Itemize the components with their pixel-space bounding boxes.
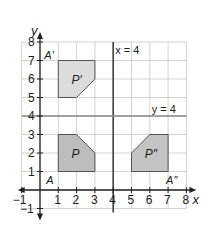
x-tick-label: 8 (182, 193, 189, 207)
y-tick-label: −1 (20, 202, 34, 216)
x-tick-label: 7 (164, 193, 171, 207)
x-axis-label: x (191, 192, 199, 207)
shape-label-P-double-prime: P″ (145, 147, 158, 161)
label-x-equals-4: x = 4 (115, 44, 139, 56)
x-tick-label: 4 (109, 193, 116, 207)
x-tick-label: 5 (128, 193, 135, 207)
coordinate-plane: PP′P″AA′A″x = 4y = 4−112345678−112345678… (0, 0, 215, 228)
y-tick-label: 5 (28, 91, 35, 105)
vertex-label-A: A (45, 174, 53, 186)
x-tick-label: 3 (91, 193, 98, 207)
vertex-label-A-prime: A′ (43, 49, 54, 61)
labels: PP′P″AA′A″x = 4y = 4−112345678−112345678… (13, 23, 200, 216)
x-tick-label: 6 (146, 193, 153, 207)
label-y-equals-4: y = 4 (152, 103, 176, 115)
y-tick-label: 7 (28, 54, 35, 68)
y-tick-label: 2 (28, 146, 35, 160)
shape-label-P-prime: P′ (72, 73, 83, 87)
y-tick-label: 4 (28, 109, 35, 123)
y-axis-arrow-up-icon (37, 32, 43, 39)
y-tick-label: 6 (28, 72, 35, 86)
y-axis-arrow-down-icon (37, 214, 43, 221)
shape-label-P: P (72, 147, 80, 161)
y-tick-label: 1 (28, 165, 35, 179)
vertex-label-A-double-prime: A″ (165, 174, 178, 186)
y-axis-label: y (30, 23, 39, 38)
x-tick-label: 2 (73, 193, 80, 207)
x-tick-label: 1 (54, 193, 61, 207)
y-tick-label: 3 (28, 128, 35, 142)
reflection-lines (22, 42, 187, 213)
